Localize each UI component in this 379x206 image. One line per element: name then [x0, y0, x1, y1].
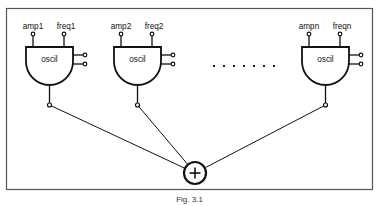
- bottom-output-port[interactable]: [48, 103, 52, 107]
- right-output-port-2[interactable]: [171, 62, 175, 66]
- freq-input-port[interactable]: [150, 32, 154, 36]
- right-output-port-2[interactable]: [83, 62, 87, 66]
- ellipsis-dot: [263, 65, 265, 67]
- ellipsis-dot: [253, 65, 255, 67]
- wire-group: [51, 106, 323, 168]
- oscillator-body: [302, 47, 349, 85]
- oscillator-osc1[interactable]: oscilamp1freq1: [23, 22, 87, 107]
- right-output-port-2[interactable]: [359, 62, 363, 66]
- freq-input-port[interactable]: [62, 32, 66, 36]
- amp-input-label: amp2: [111, 22, 132, 31]
- connection-wire-oscn: [206, 106, 324, 167]
- amp-input-port[interactable]: [307, 32, 311, 36]
- oscillator-osc2[interactable]: oscilamp2freq2: [111, 22, 175, 107]
- oscillator-body-label: oscil: [317, 55, 334, 64]
- oscillator-oscn[interactable]: oscilampnfreqn: [299, 22, 363, 107]
- amp-input-label: ampn: [299, 22, 320, 31]
- ellipsis-dot: [233, 65, 235, 67]
- oscillator-body: [26, 47, 73, 85]
- bottom-output-port[interactable]: [136, 103, 140, 107]
- freq-input-label: freq2: [145, 22, 164, 31]
- oscillator-body-label: oscil: [129, 55, 146, 64]
- right-output-port-1[interactable]: [359, 53, 363, 57]
- connection-wire-osc2: [139, 107, 187, 164]
- amp-input-port[interactable]: [31, 32, 35, 36]
- bottom-output-port[interactable]: [324, 103, 328, 107]
- freq-input-label: freqn: [333, 22, 352, 31]
- oscillator-group: oscilamp1freq1oscilamp2freq2oscilampnfre…: [23, 22, 363, 107]
- freq-input-port[interactable]: [338, 32, 342, 36]
- ellipsis-dot: [223, 65, 225, 67]
- summing-node[interactable]: [184, 162, 206, 184]
- oscillator-bank-figure: oscilamp1freq1oscilamp2freq2oscilampnfre…: [0, 0, 379, 206]
- figure-caption: Fig. 3.1: [176, 195, 203, 204]
- amp-input-label: amp1: [23, 22, 44, 31]
- right-output-port-1[interactable]: [83, 53, 87, 57]
- diagram-canvas: oscilamp1freq1oscilamp2freq2oscilampnfre…: [0, 0, 379, 206]
- oscillator-body: [114, 47, 161, 85]
- ellipsis-dot: [273, 65, 275, 67]
- freq-input-label: freq1: [57, 22, 76, 31]
- oscillator-body-label: oscil: [41, 55, 58, 64]
- amp-input-port[interactable]: [119, 32, 123, 36]
- ellipsis-dot: [213, 65, 215, 67]
- ellipsis-dot: [243, 65, 245, 67]
- right-output-port-1[interactable]: [171, 53, 175, 57]
- ellipsis-dots: [213, 65, 275, 67]
